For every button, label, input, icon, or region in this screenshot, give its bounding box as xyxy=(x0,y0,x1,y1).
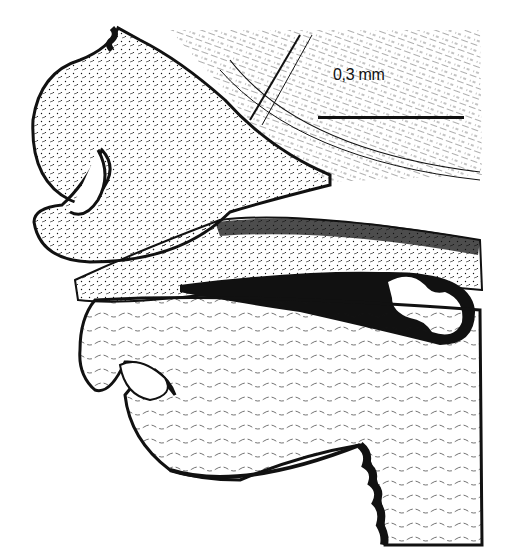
tissue-drawing xyxy=(0,0,514,557)
scale-bar xyxy=(318,116,464,119)
lower-fold xyxy=(80,298,482,545)
histology-figure: 0,3 mm xyxy=(0,0,514,557)
scale-bar-label: 0,3 mm xyxy=(333,66,385,84)
